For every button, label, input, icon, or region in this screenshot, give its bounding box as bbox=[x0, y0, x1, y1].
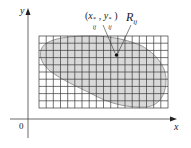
y-axis-label: y bbox=[20, 6, 24, 16]
y-axis-arrow-icon bbox=[26, 8, 31, 15]
subrectangle-label: Rij bbox=[126, 11, 137, 23]
diagram-canvas bbox=[0, 0, 191, 148]
sample-point-label: (x*ij, y*ij) bbox=[85, 11, 118, 21]
x-axis-label: x bbox=[174, 122, 178, 132]
sample-point-marker bbox=[115, 53, 119, 57]
origin-label: 0 bbox=[19, 122, 24, 131]
